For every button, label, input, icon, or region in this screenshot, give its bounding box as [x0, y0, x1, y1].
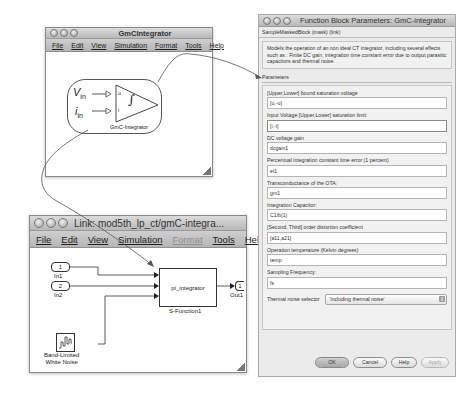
- inport-in1-label: In1: [54, 273, 62, 279]
- menu-format[interactable]: Format: [155, 42, 177, 49]
- block-label: GmC-Integrator: [110, 124, 148, 130]
- noise-waveform-icon: [57, 334, 74, 351]
- ok-button[interactable]: OK: [315, 357, 349, 368]
- window-titlebar[interactable]: GmCIntegrator: [46, 28, 212, 39]
- thermal-noise-select[interactable]: 'including thermal noise' ⇕: [325, 294, 447, 305]
- model-canvas[interactable]: 1 In1 2 In2 pi_integrator S-Function1 1 …: [30, 248, 246, 372]
- field-temperature: Operation temperature (Kelvin degrees) t…: [267, 247, 447, 266]
- amplifier-triangle-icon: [86, 83, 160, 123]
- vin-label: Vin: [73, 86, 86, 100]
- outport-out1-label: Out1: [230, 292, 243, 298]
- field-input-saturation-limit: Input Voltage [Upper,Lower] saturation l…: [267, 112, 447, 131]
- gmc-integrator-block[interactable]: Vin iin u i ∫ GmC-Integrator: [67, 79, 162, 134]
- parameters-section-label: Parameters: [262, 74, 452, 83]
- inport-in1[interactable]: 1: [51, 262, 70, 272]
- port-u-label: u: [118, 90, 121, 96]
- thermal-noise-row: Thermal noise selector 'including therma…: [267, 294, 447, 305]
- integration-capacitor-input[interactable]: C1/b(1): [267, 209, 447, 221]
- apply-button: Apply: [421, 357, 449, 368]
- close-button[interactable]: [34, 218, 44, 228]
- minimize-button[interactable]: [60, 29, 68, 37]
- distortion-coefficient-input[interactable]: [a11,a21]: [267, 232, 447, 244]
- field-sampling-frequency: Sampling Frequency: fs: [267, 269, 447, 288]
- thermal-noise-label: Thermal noise selector: [267, 296, 319, 302]
- function-block-parameters-dialog: Function Block Parameters: GmC-integrato…: [258, 14, 456, 377]
- chevron-updown-icon: ⇕: [439, 296, 445, 302]
- white-noise-block[interactable]: [56, 333, 75, 352]
- field-saturation-voltage: [Upper,Lower] bound saturation voltage […: [267, 90, 447, 109]
- cancel-button[interactable]: Cancel: [353, 357, 387, 368]
- link-subsystem-window: Link: mod5th_lp_ct/gmC-integra... File E…: [29, 215, 247, 373]
- dialog-title: Function Block Parameters: GmC-integrato…: [291, 16, 455, 25]
- window-title: Link: mod5th_lp_ct/gmC-integra...: [68, 218, 246, 229]
- integral-symbol: ∫: [128, 92, 135, 107]
- block-description: Models the operation of an non ideal CT …: [262, 41, 452, 68]
- resize-grip[interactable]: [203, 167, 211, 175]
- dialog-buttons: OK Cancel Help Apply: [315, 357, 449, 368]
- transconductance-input[interactable]: gm1: [267, 187, 447, 199]
- dc-gain-input[interactable]: dcgain1: [267, 142, 447, 154]
- parameters-panel: [Upper,Lower] bound saturation voltage […: [262, 85, 452, 330]
- window-title: GmCIntegrator: [78, 29, 212, 38]
- menu-bar: File Edit View Simulation Format Tools H…: [30, 231, 246, 248]
- menu-simulation[interactable]: Simulation: [118, 234, 162, 245]
- s-function-label: S-Function1: [169, 308, 201, 314]
- resize-grip[interactable]: [237, 363, 245, 371]
- menu-tools[interactable]: Tools: [185, 42, 201, 49]
- white-noise-label: Band-LimitedWhite Noise: [44, 352, 79, 366]
- input-saturation-limit-input[interactable]: [i,-i]: [267, 120, 447, 132]
- menu-simulation[interactable]: Simulation: [114, 42, 147, 49]
- close-button[interactable]: [50, 29, 58, 37]
- port-i-label: i: [118, 107, 119, 113]
- dialog-titlebar[interactable]: Function Block Parameters: GmC-integrato…: [259, 15, 455, 27]
- menu-edit[interactable]: Edit: [61, 234, 77, 245]
- menu-help[interactable]: Help: [210, 42, 224, 49]
- menu-format: Format: [172, 234, 202, 245]
- close-button[interactable]: [263, 17, 271, 25]
- field-time-constant-error: Percentual integration constant time err…: [267, 157, 447, 176]
- mask-header: SampleMaskedBlock (mask) (link): [259, 27, 455, 38]
- saturation-voltage-input[interactable]: [u,-u]: [267, 97, 447, 109]
- time-constant-error-input[interactable]: et1: [267, 165, 447, 177]
- s-function-block[interactable]: pi_integrator: [159, 268, 217, 307]
- minimize-button[interactable]: [46, 218, 56, 228]
- menu-view[interactable]: View: [91, 42, 106, 49]
- field-transconductance: Transconductance of the OTA: gm1: [267, 180, 447, 199]
- menu-file[interactable]: File: [36, 234, 51, 245]
- menu-bar: File Edit View Simulation Format Tools H…: [46, 39, 212, 52]
- help-button[interactable]: Help: [391, 357, 417, 368]
- menu-tools[interactable]: Tools: [213, 234, 235, 245]
- zoom-button[interactable]: [283, 17, 291, 25]
- menu-edit[interactable]: Edit: [71, 42, 83, 49]
- sampling-frequency-input[interactable]: fs: [267, 277, 447, 289]
- zoom-button[interactable]: [70, 29, 78, 37]
- iin-label: iin: [75, 105, 83, 119]
- outport-out1[interactable]: 1: [235, 281, 244, 291]
- window-titlebar[interactable]: Link: mod5th_lp_ct/gmC-integra...: [30, 216, 246, 231]
- model-canvas[interactable]: Vin iin u i ∫ GmC-Integrator: [46, 52, 212, 176]
- menu-file[interactable]: File: [52, 42, 63, 49]
- inport-in2[interactable]: 2: [51, 281, 70, 291]
- menu-view[interactable]: View: [88, 234, 108, 245]
- minimize-button[interactable]: [273, 17, 281, 25]
- temperature-input[interactable]: temp: [267, 254, 447, 266]
- field-distortion-coefficient: [Second, Third] order distortion coeffic…: [267, 224, 447, 243]
- field-dc-gain: DC voltage gain dcgain1: [267, 135, 447, 154]
- gmc-integrator-window: GmCIntegrator File Edit View Simulation …: [45, 27, 213, 177]
- zoom-button[interactable]: [58, 218, 68, 228]
- field-integration-capacitor: Integration Capacitor: C1/b(1): [267, 202, 447, 221]
- inport-in2-label: In2: [54, 292, 62, 298]
